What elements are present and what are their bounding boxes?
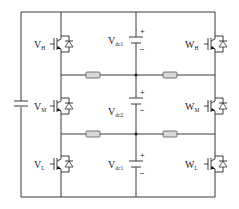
switch-WL <box>204 154 227 174</box>
switch-VL <box>50 154 73 174</box>
dc-source-dc2: + − Vdc2 <box>108 88 145 118</box>
dc-source-dc1-top: + − Vdc1 <box>108 27 145 54</box>
svg-text:−: − <box>140 169 145 178</box>
svg-text:Vdc1: Vdc1 <box>108 35 123 47</box>
switch-VM <box>50 96 73 116</box>
dc-source-dc1-bottom: + − Vdc1 <box>108 151 145 178</box>
svg-text:−: − <box>140 106 145 115</box>
label-WH: WH <box>185 39 198 51</box>
junction-dot <box>134 73 137 76</box>
circuit-diagram: VH VM VL WH WM WL + − Vdc1 + − Vdc2 + − … <box>0 0 239 209</box>
label-WM: WM <box>185 101 199 113</box>
svg-text:+: + <box>140 151 145 160</box>
label-VM: VM <box>34 101 46 113</box>
switch-WM <box>204 96 227 116</box>
svg-text:Vdc2: Vdc2 <box>108 106 123 118</box>
svg-text:Vdc1: Vdc1 <box>108 159 123 171</box>
svg-text:+: + <box>140 27 145 36</box>
resistor <box>86 72 100 78</box>
junction-dot <box>134 132 137 135</box>
switch-VH <box>50 34 73 54</box>
label-VH: VH <box>34 39 45 51</box>
resistor <box>86 131 100 137</box>
svg-text:−: − <box>140 45 145 54</box>
label-VL: VL <box>34 159 45 171</box>
svg-text:+: + <box>140 88 145 97</box>
resistor <box>163 131 177 137</box>
label-WL: WL <box>185 159 198 171</box>
resistor <box>163 72 177 78</box>
switch-WH <box>204 34 227 54</box>
